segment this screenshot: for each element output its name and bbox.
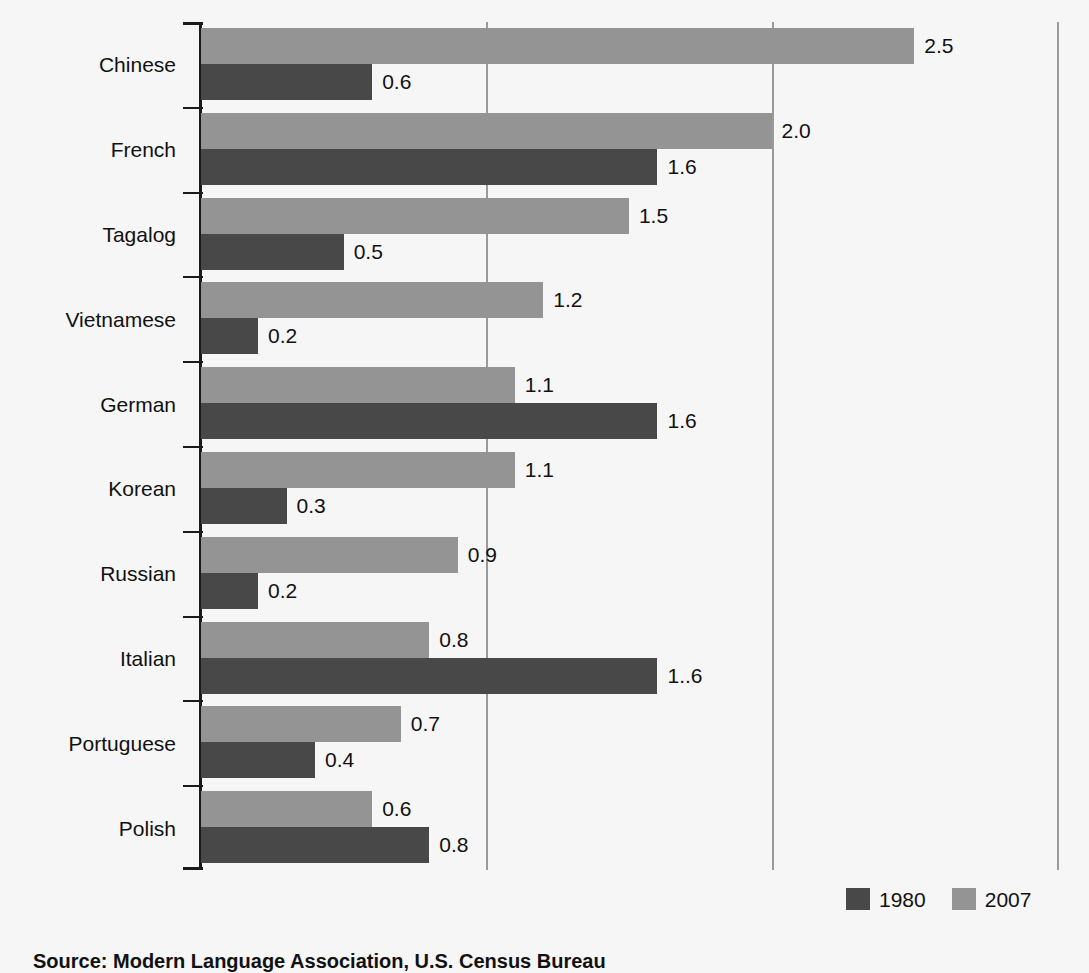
bar-german-2007	[201, 367, 515, 403]
bar-value-portuguese-1980: 0.4	[315, 742, 354, 778]
bar-tagalog-1980	[201, 234, 344, 270]
bar-french-2007	[201, 113, 772, 149]
axis-tick	[183, 616, 203, 618]
y-axis-cap-top	[183, 22, 203, 25]
bar-group-tagalog: 1.50.5	[201, 198, 1057, 270]
bar-value-german-2007: 1.1	[515, 367, 554, 403]
legend-item-2007[interactable]: 2007	[952, 888, 1032, 910]
bar-russian-1980	[201, 573, 258, 609]
bar-value-german-1980: 1.6	[657, 403, 696, 439]
axis-tick	[183, 192, 203, 194]
category-label-tagalog: Tagalog	[0, 224, 176, 245]
legend-swatch-2007	[952, 888, 976, 910]
bar-polish-2007	[201, 791, 372, 827]
y-axis-cap-bottom	[183, 867, 203, 870]
bar-group-polish: 0.60.8	[201, 791, 1057, 863]
bar-group-portuguese: 0.70.4	[201, 706, 1057, 778]
bar-value-vietnamese-1980: 0.2	[258, 318, 297, 354]
axis-tick	[183, 361, 203, 363]
bar-group-french: 2.01.6	[201, 113, 1057, 185]
category-label-italian: Italian	[0, 648, 176, 669]
bar-value-portuguese-2007: 0.7	[401, 706, 440, 742]
bar-value-chinese-2007: 2.5	[914, 28, 953, 64]
bar-value-french-1980: 1.6	[657, 149, 696, 185]
bar-value-tagalog-1980: 0.5	[344, 234, 383, 270]
bar-korean-1980	[201, 488, 287, 524]
bar-group-vietnamese: 1.20.2	[201, 282, 1057, 354]
axis-tick	[183, 107, 203, 109]
bar-italian-1980	[201, 658, 657, 694]
category-label-chinese: Chinese	[0, 54, 176, 75]
category-labels: ChineseFrenchTagalogVietnameseGermanKore…	[0, 22, 176, 870]
bar-value-polish-1980: 0.8	[429, 827, 468, 863]
legend-item-1980[interactable]: 1980	[846, 888, 926, 910]
bar-vietnamese-2007	[201, 282, 543, 318]
bar-group-italian: 0.81..6	[201, 622, 1057, 694]
bar-portuguese-2007	[201, 706, 401, 742]
legend-label-2007: 2007	[985, 889, 1032, 910]
bar-value-russian-1980: 0.2	[258, 573, 297, 609]
bar-group-korean: 1.10.3	[201, 452, 1057, 524]
category-label-french: French	[0, 139, 176, 160]
axis-tick	[183, 276, 203, 278]
axis-tick	[183, 531, 203, 533]
bar-group-german: 1.11.6	[201, 367, 1057, 439]
bar-portuguese-1980	[201, 742, 315, 778]
legend: 19802007	[846, 888, 1031, 910]
bar-german-1980	[201, 403, 657, 439]
category-label-portuguese: Portuguese	[0, 733, 176, 754]
axis-tick	[183, 785, 203, 787]
bar-group-russian: 0.90.2	[201, 537, 1057, 609]
legend-label-1980: 1980	[879, 889, 926, 910]
bar-vietnamese-1980	[201, 318, 258, 354]
bar-french-1980	[201, 149, 657, 185]
bar-chinese-1980	[201, 64, 372, 100]
bar-polish-1980	[201, 827, 429, 863]
gridline-3.0	[1057, 22, 1059, 870]
bar-value-vietnamese-2007: 1.2	[543, 282, 582, 318]
plot-area: 2.50.62.01.61.50.51.20.21.11.61.10.30.90…	[201, 22, 1057, 870]
source-note: Source: Modern Language Association, U.S…	[33, 950, 606, 973]
legend-swatch-1980	[846, 888, 870, 910]
bar-value-chinese-1980: 0.6	[372, 64, 411, 100]
bar-italian-2007	[201, 622, 429, 658]
category-label-vietnamese: Vietnamese	[0, 309, 176, 330]
category-label-russian: Russian	[0, 563, 176, 584]
axis-tick	[183, 700, 203, 702]
bar-value-french-2007: 2.0	[772, 113, 811, 149]
category-label-german: German	[0, 394, 176, 415]
category-label-polish: Polish	[0, 818, 176, 839]
bar-value-korean-2007: 1.1	[515, 452, 554, 488]
bar-russian-2007	[201, 537, 458, 573]
bar-korean-2007	[201, 452, 515, 488]
bar-value-polish-2007: 0.6	[372, 791, 411, 827]
bar-value-italian-1980: 1..6	[657, 658, 702, 694]
bar-value-korean-1980: 0.3	[287, 488, 326, 524]
bar-chinese-2007	[201, 28, 914, 64]
category-label-korean: Korean	[0, 478, 176, 499]
bar-tagalog-2007	[201, 198, 629, 234]
bar-value-russian-2007: 0.9	[458, 537, 497, 573]
bar-value-tagalog-2007: 1.5	[629, 198, 668, 234]
bar-group-chinese: 2.50.6	[201, 28, 1057, 100]
axis-tick	[183, 446, 203, 448]
bar-value-italian-2007: 0.8	[429, 622, 468, 658]
